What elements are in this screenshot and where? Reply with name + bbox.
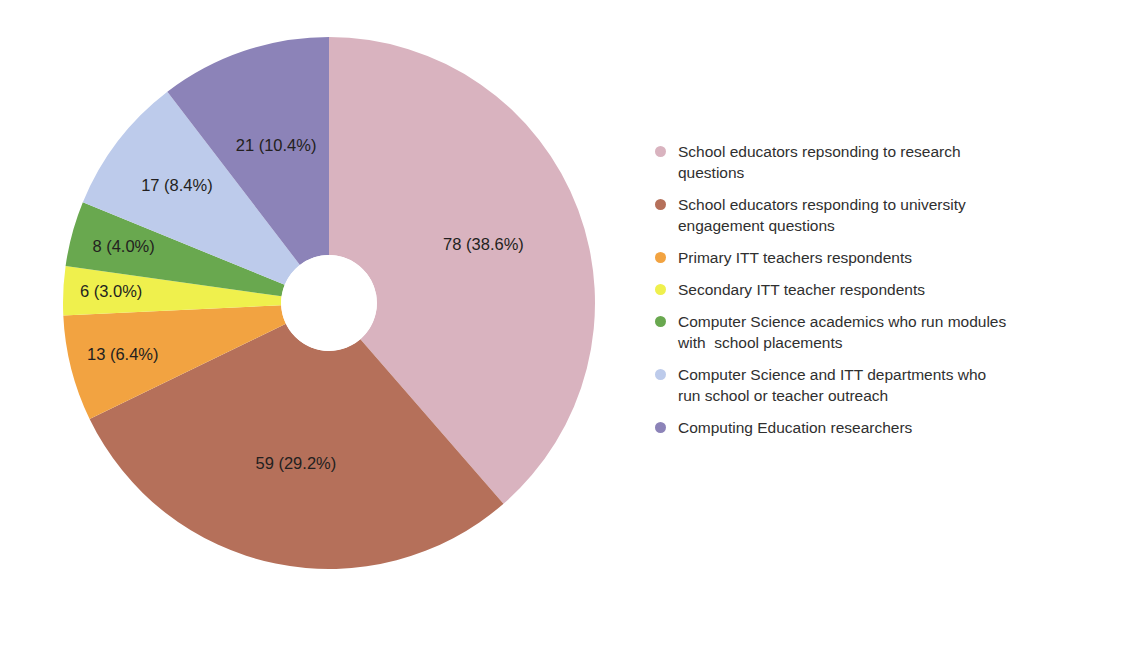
pie-data-label: 6 (3.0%) xyxy=(80,282,142,300)
legend-swatch-icon xyxy=(655,316,666,327)
legend-item-label: Computer Science academics who run modul… xyxy=(678,311,1006,353)
donut-center-hole xyxy=(281,255,377,351)
pie-data-label: 8 (4.0%) xyxy=(92,237,154,255)
legend-item-label: Computer Science and ITT departments who… xyxy=(678,364,986,406)
legend-item-label: Computing Education researchers xyxy=(678,417,912,438)
pie-data-label: 17 (8.4%) xyxy=(141,176,213,194)
legend-swatch-icon xyxy=(655,422,666,433)
pie-data-label: 13 (6.4%) xyxy=(87,345,159,363)
legend-item[interactable]: Computer Science academics who run modul… xyxy=(655,311,1075,353)
legend-item[interactable]: Secondary ITT teacher respondents xyxy=(655,279,1075,300)
legend-swatch-icon xyxy=(655,284,666,295)
pie-data-label: 21 (10.4%) xyxy=(236,136,317,154)
legend-item[interactable]: Computing Education researchers xyxy=(655,417,1075,438)
legend-swatch-icon xyxy=(655,369,666,380)
pie-data-label: 78 (38.6%) xyxy=(443,235,524,253)
legend-swatch-icon xyxy=(655,252,666,263)
legend-item-label: School educators responding to universit… xyxy=(678,194,966,236)
legend-item-label: Primary ITT teachers respondents xyxy=(678,247,912,268)
chart-legend: School educators repsonding to research … xyxy=(655,141,1075,449)
legend-item[interactable]: Primary ITT teachers respondents xyxy=(655,247,1075,268)
donut-plot-area: 78 (38.6%)59 (29.2%)13 (6.4%)6 (3.0%)8 (… xyxy=(62,36,596,570)
legend-item-label: School educators repsonding to research … xyxy=(678,141,961,183)
legend-swatch-icon xyxy=(655,199,666,210)
legend-swatch-icon xyxy=(655,146,666,157)
legend-item-label: Secondary ITT teacher respondents xyxy=(678,279,925,300)
legend-item[interactable]: School educators repsonding to research … xyxy=(655,141,1075,183)
donut-chart-figure: 78 (38.6%)59 (29.2%)13 (6.4%)6 (3.0%)8 (… xyxy=(0,0,1137,646)
pie-slices-group xyxy=(63,37,595,569)
legend-item[interactable]: Computer Science and ITT departments who… xyxy=(655,364,1075,406)
pie-data-label: 59 (29.2%) xyxy=(256,454,337,472)
donut-svg: 78 (38.6%)59 (29.2%)13 (6.4%)6 (3.0%)8 (… xyxy=(62,36,596,570)
legend-item[interactable]: School educators responding to universit… xyxy=(655,194,1075,236)
